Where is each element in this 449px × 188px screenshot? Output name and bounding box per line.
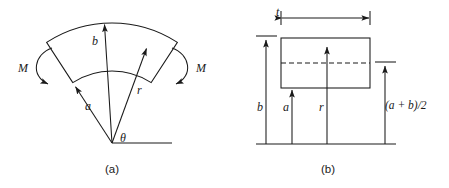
panel-b-caption: (b) [321, 164, 335, 176]
panel-a-curved-beam: M M a r b θ (a) [0, 0, 225, 188]
sector-outline [47, 23, 178, 83]
moment-left-label: M [18, 62, 28, 74]
radius-a-arrow [76, 87, 113, 143]
dimension-mid-label: (a + b)/2 [385, 100, 427, 112]
panel-b-rectangular-section: t b a r (a + b)/2 (b) [224, 0, 449, 188]
radius-b-arrow [105, 25, 113, 144]
moment-right-curved-arrow [172, 48, 188, 84]
outer-radius-b-label: b [92, 35, 98, 47]
dimension-b-label: b [257, 101, 263, 113]
panel-b-drawing [224, 0, 449, 188]
figure-canvas: M M a r b θ (a) [0, 0, 449, 188]
thickness-t-label: t [276, 6, 279, 18]
panel-a-drawing [0, 0, 225, 188]
moment-left-curved-arrow [36, 48, 52, 84]
centroid-radius-r-label: r [137, 84, 142, 96]
angle-theta-label: θ [120, 132, 126, 144]
dimension-a-label: a [283, 101, 289, 113]
panel-a-caption: (a) [105, 164, 119, 176]
dimension-r-label: r [319, 101, 324, 113]
moment-right-label: M [196, 62, 206, 74]
inner-radius-a-label: a [85, 100, 91, 112]
